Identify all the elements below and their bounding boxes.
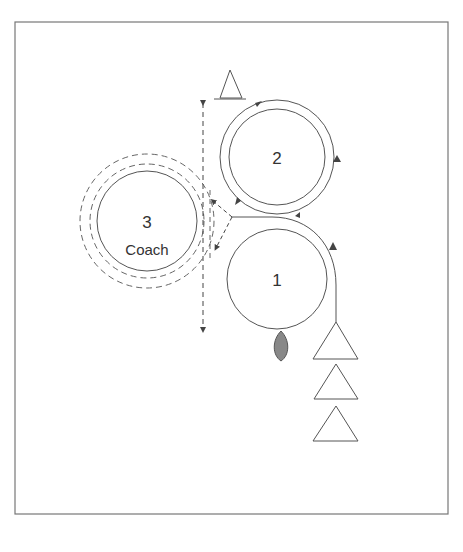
pass-line-upper [213, 201, 232, 217]
station-1-group: 1 [227, 229, 327, 329]
queue-cone-3 [313, 406, 358, 441]
drill-diagram: 3 Coach 2 1 [0, 0, 463, 552]
ring-arrow-top [255, 101, 262, 107]
station-3-number: 3 [142, 213, 151, 232]
cone-icon [220, 70, 242, 98]
station-2-number: 2 [272, 149, 281, 168]
diagram-canvas: 3 Coach 2 1 [0, 0, 463, 552]
run-path [232, 217, 336, 322]
ball-icon [274, 331, 288, 361]
run-path-arrow [329, 242, 337, 250]
station-2-group: 2 [220, 100, 341, 218]
station-3-group: 3 Coach [80, 154, 214, 288]
queue-cone-1 [313, 322, 358, 359]
marker-cone [214, 70, 246, 99]
station-1-number: 1 [272, 271, 281, 290]
pass-line-lower [216, 217, 232, 248]
station-3-label: Coach [125, 241, 168, 258]
ring-arrow-left [235, 197, 241, 205]
queue-cone-2 [314, 364, 358, 399]
ring-arrow-bottom [295, 212, 300, 218]
queue-cones [313, 322, 358, 441]
